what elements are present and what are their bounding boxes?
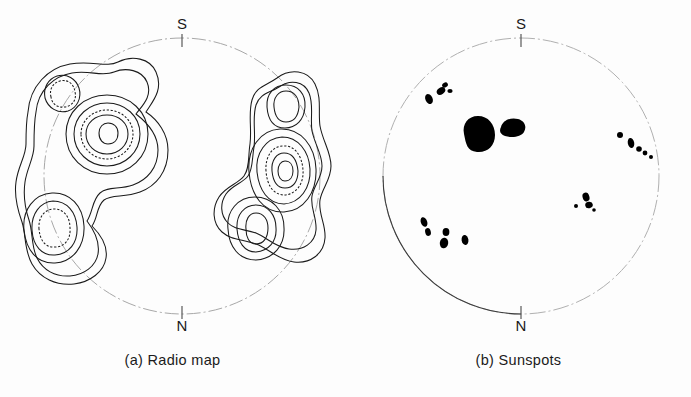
sunspot xyxy=(461,235,469,246)
contour-east-main-l1 xyxy=(66,95,148,174)
contour-east-main-l2 xyxy=(74,103,140,166)
sunspot xyxy=(643,151,648,156)
sunspot xyxy=(447,89,452,93)
contour-east-upper-l2-hatched xyxy=(50,81,75,108)
contour-west-lower-l3-core xyxy=(246,213,268,244)
sunspot xyxy=(649,155,653,159)
contour-east-main-l4 xyxy=(86,115,128,154)
caption-panel-a: (a) Radio map xyxy=(0,352,345,368)
sunspot-group-west-central xyxy=(574,192,596,212)
sunspot xyxy=(424,93,435,105)
contour-peak-west-main xyxy=(249,129,316,212)
contour-peak-east-upper xyxy=(45,75,80,112)
contour-group-west xyxy=(214,72,331,263)
solar-comparison-figure: S N xyxy=(0,0,691,397)
solar-limb-solid-arc-b xyxy=(383,176,521,314)
sunspot-plot xyxy=(346,0,691,340)
sunspot-group-northwest-chain xyxy=(617,132,653,159)
contour-west-main-l4 xyxy=(272,153,298,188)
sunspot-large xyxy=(464,116,495,152)
sunspot xyxy=(617,132,623,138)
contour-west-main-l2 xyxy=(257,137,310,204)
contour-west-outer xyxy=(214,72,331,263)
contour-west-main-l5-core xyxy=(278,161,293,181)
sunspot xyxy=(574,204,578,208)
radio-map-plot xyxy=(0,0,345,340)
sunspot xyxy=(592,208,596,212)
panel-sunspots: S N xyxy=(346,0,691,397)
sunspot xyxy=(443,228,450,236)
sunspot-large xyxy=(500,118,525,137)
sunspot xyxy=(424,227,431,236)
contour-east-upper-l1 xyxy=(45,75,80,112)
sunspot-group-southeast xyxy=(419,216,469,249)
caption-panel-b: (b) Sunspots xyxy=(346,352,691,368)
sunspot xyxy=(581,192,590,202)
sunspot xyxy=(636,146,642,152)
sunspot xyxy=(585,201,594,209)
contour-west-main-l1 xyxy=(249,129,316,212)
contour-east-main-l5-core xyxy=(99,123,118,144)
contour-peak-east-main xyxy=(66,95,148,174)
sunspot xyxy=(419,216,428,228)
solar-limb-circle-b xyxy=(383,38,659,314)
contour-east-main-l3-hatched xyxy=(81,110,133,159)
sunspot xyxy=(439,237,449,249)
panel-radio-map: S N xyxy=(0,0,345,397)
contour-peak-west-upper xyxy=(267,85,305,128)
sunspot-group-northeast-small xyxy=(424,81,453,105)
sunspot-group-northeast-large xyxy=(464,116,526,152)
sunspot xyxy=(627,137,635,148)
contour-west-upper-l2 xyxy=(274,91,299,122)
contour-west-lower-l2 xyxy=(237,205,276,252)
